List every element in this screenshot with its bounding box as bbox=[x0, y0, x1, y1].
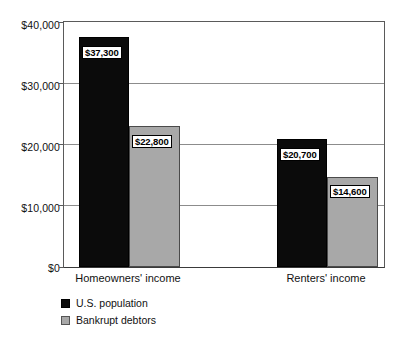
y-tick-label-40000: $40,000 bbox=[2, 20, 60, 31]
legend: U.S. population Bankrupt debtors bbox=[61, 296, 156, 330]
value-label-renters-us-population: $20,700 bbox=[280, 148, 320, 161]
value-label-renters-bankrupt-debtors: $14,600 bbox=[330, 185, 370, 198]
legend-item-us-population: U.S. population bbox=[61, 296, 156, 311]
y-tick-mark-10000 bbox=[59, 205, 64, 206]
y-tick-mark-40000 bbox=[59, 22, 64, 23]
x-axis-label-homeowners-income: Homeowners' income bbox=[48, 272, 208, 285]
legend-label-bankrupt-debtors: Bankrupt debtors bbox=[76, 315, 156, 326]
y-tick-label-20000: $20,000 bbox=[2, 142, 60, 153]
bar-homeowners-us-population bbox=[79, 37, 129, 267]
y-tick-mark-30000 bbox=[59, 83, 64, 84]
y-axis-tick-labels: $40,000 $30,000 $20,000 $10,000 $0 bbox=[0, 0, 60, 339]
legend-item-bankrupt-debtors: Bankrupt debtors bbox=[61, 313, 156, 328]
legend-swatch-icon-us-population bbox=[61, 299, 70, 308]
y-tick-mark-0 bbox=[59, 267, 64, 268]
y-tick-label-30000: $30,000 bbox=[2, 81, 60, 92]
plot-area: $37,300 $22,800 $20,700 $14,600 bbox=[63, 21, 385, 268]
value-label-homeowners-us-population: $37,300 bbox=[82, 46, 122, 59]
x-axis-label-renters-income: Renters' income bbox=[246, 272, 406, 285]
bar-chart-figure: $40,000 $30,000 $20,000 $10,000 $0 $37,3… bbox=[0, 0, 407, 339]
legend-swatch-icon-bankrupt-debtors bbox=[61, 316, 70, 325]
y-tick-mark-20000 bbox=[59, 144, 64, 145]
y-tick-label-10000: $10,000 bbox=[2, 203, 60, 214]
legend-label-us-population: U.S. population bbox=[76, 298, 148, 309]
value-label-homeowners-bankrupt-debtors: $22,800 bbox=[132, 135, 172, 148]
